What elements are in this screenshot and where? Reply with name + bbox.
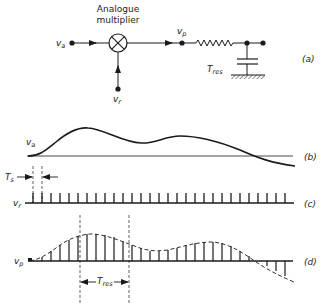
- panel-a-block-diagram: Analogue multiplier va vr vp: [56, 4, 315, 106]
- va-input-label: va: [56, 38, 65, 50]
- sampled-bars: [42, 234, 285, 276]
- vp-sampled-label: vp: [14, 256, 23, 268]
- multiplier-icon: [109, 34, 127, 52]
- panel-tag-b: (b): [304, 152, 317, 162]
- tres-window-label: Tres: [97, 276, 113, 288]
- pulse-train: [33, 193, 285, 203]
- multiplier-label-line2: multiplier: [97, 15, 140, 25]
- tres-filter-label: Tres: [207, 64, 223, 76]
- panel-tag-a: (a): [302, 54, 315, 64]
- vr-input-label: vr: [113, 94, 122, 106]
- va-waveform-label: va: [26, 137, 35, 149]
- vr-pulse-label: vr: [13, 198, 22, 210]
- output-terminal: [260, 40, 265, 45]
- panel-tag-d: (d): [304, 257, 317, 267]
- panel-tag-c: (c): [304, 199, 316, 209]
- panel-d-sampled-product: Tres vp (d): [14, 215, 317, 303]
- panel-c-reference-pulses: Ts vr (c): [5, 166, 316, 210]
- panel-b-input-waveform: va (b): [26, 128, 317, 166]
- capacitor-icon: [237, 43, 258, 75]
- vp-label: vp: [177, 26, 186, 38]
- multiplier-label-line1: Analogue: [97, 4, 140, 14]
- lock-in-diagram: Analogue multiplier va vr vp: [0, 0, 324, 303]
- ground-icon: [231, 75, 265, 79]
- va-waveform: [28, 128, 295, 166]
- ts-label: Ts: [5, 172, 15, 184]
- resistor-icon: [182, 40, 247, 46]
